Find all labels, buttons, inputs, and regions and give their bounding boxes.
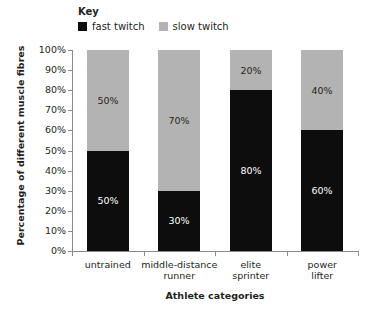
x-axis-label-untrained: untrained — [68, 259, 148, 270]
x-axis-label-line: middle-distance — [139, 259, 219, 270]
x-axis-title: Athlete categories — [72, 290, 358, 301]
y-axis-tick-label: 50% — [45, 145, 66, 156]
legend-entry-slow-twitch: slow twitch — [159, 21, 229, 32]
bar-segment-fast-twitch[interactable]: 50% — [87, 151, 129, 252]
y-axis-tick-mark — [68, 90, 72, 91]
y-axis-tick-label: 20% — [45, 205, 66, 216]
y-axis-tick-mark — [68, 50, 72, 51]
legend-label-slow-twitch: slow twitch — [173, 21, 229, 32]
bar-segment-label-slow-twitch: 70% — [168, 115, 189, 126]
y-axis-title: Percentage of different muscle fibres — [14, 38, 28, 253]
x-axis-label-line: untrained — [68, 259, 148, 270]
y-axis-tick-mark — [68, 171, 72, 172]
y-axis-tick-mark — [68, 70, 72, 71]
x-axis-label-line: lifter — [282, 270, 362, 281]
x-axis-label-line: elite — [211, 259, 291, 270]
x-axis-label-elite-sprinter: elitesprinter — [211, 259, 291, 281]
x-axis-label-line: runner — [139, 270, 219, 281]
x-axis-tick-mark — [287, 251, 288, 256]
bar-segment-label-slow-twitch: 20% — [240, 65, 261, 76]
legend-swatch-slow-twitch-icon — [159, 22, 168, 31]
y-axis-tick-label: 90% — [45, 64, 66, 75]
x-axis-label-middle-distance-runner: middle-distancerunner — [139, 259, 219, 281]
bar-segment-slow-twitch[interactable]: 40% — [301, 50, 343, 130]
y-axis-tick-label: 0% — [51, 245, 66, 256]
bar-segment-label-fast-twitch: 60% — [311, 185, 332, 196]
y-axis-tick-mark — [68, 191, 72, 192]
y-axis-tick-label: 70% — [45, 104, 66, 115]
x-axis-tick-mark — [144, 251, 145, 256]
x-axis-label-power-lifter: powerlifter — [282, 259, 362, 281]
y-axis-tick-label: 60% — [45, 124, 66, 135]
bar-segment-label-fast-twitch: 80% — [240, 165, 261, 176]
legend-entry-fast-twitch: fast twitch — [78, 21, 145, 32]
y-axis-tick-label: 40% — [45, 165, 66, 176]
y-axis-tick-label: 30% — [45, 185, 66, 196]
y-axis-line — [72, 50, 73, 252]
y-axis-tick-mark — [68, 130, 72, 131]
y-axis-tick-mark — [68, 110, 72, 111]
bar-segment-slow-twitch[interactable]: 50% — [87, 50, 129, 151]
bar-segment-label-slow-twitch: 40% — [311, 85, 332, 96]
bar-middle-distance-runner[interactable]: 70%30% — [158, 50, 200, 251]
y-axis-tick-mark — [68, 231, 72, 232]
bar-segment-fast-twitch[interactable]: 60% — [301, 130, 343, 251]
legend-title: Key — [78, 6, 298, 18]
y-axis-tick-label: 10% — [45, 225, 66, 236]
legend-entries: fast twitch slow twitch — [78, 21, 298, 32]
bar-segment-label-fast-twitch: 50% — [97, 195, 118, 206]
plot-area: 0%10%20%30%40%50%60%70%80%90%100% 50%50%… — [72, 50, 358, 252]
x-axis-label-line: power — [282, 259, 362, 270]
bar-segment-slow-twitch[interactable]: 20% — [230, 50, 272, 90]
legend-swatch-fast-twitch-icon — [78, 22, 87, 31]
x-axis-tick-mark — [72, 251, 73, 256]
bar-segment-fast-twitch[interactable]: 80% — [230, 90, 272, 251]
x-axis-tick-mark — [358, 251, 359, 256]
chart-legend: Key fast twitch slow twitch — [78, 6, 298, 32]
y-axis-tick-label: 80% — [45, 84, 66, 95]
bar-segment-slow-twitch[interactable]: 70% — [158, 50, 200, 191]
bar-elite-sprinter[interactable]: 20%80% — [230, 50, 272, 251]
legend-label-fast-twitch: fast twitch — [92, 21, 145, 32]
bar-segment-label-fast-twitch: 30% — [168, 215, 189, 226]
x-axis-tick-mark — [215, 251, 216, 256]
bar-untrained[interactable]: 50%50% — [87, 50, 129, 251]
bar-power-lifter[interactable]: 40%60% — [301, 50, 343, 251]
bar-segment-fast-twitch[interactable]: 30% — [158, 191, 200, 251]
y-axis-tick-mark — [68, 211, 72, 212]
x-axis-label-line: sprinter — [211, 270, 291, 281]
y-axis-tick-mark — [68, 151, 72, 152]
bar-segment-label-slow-twitch: 50% — [97, 95, 118, 106]
y-axis-tick-label: 100% — [39, 44, 66, 55]
